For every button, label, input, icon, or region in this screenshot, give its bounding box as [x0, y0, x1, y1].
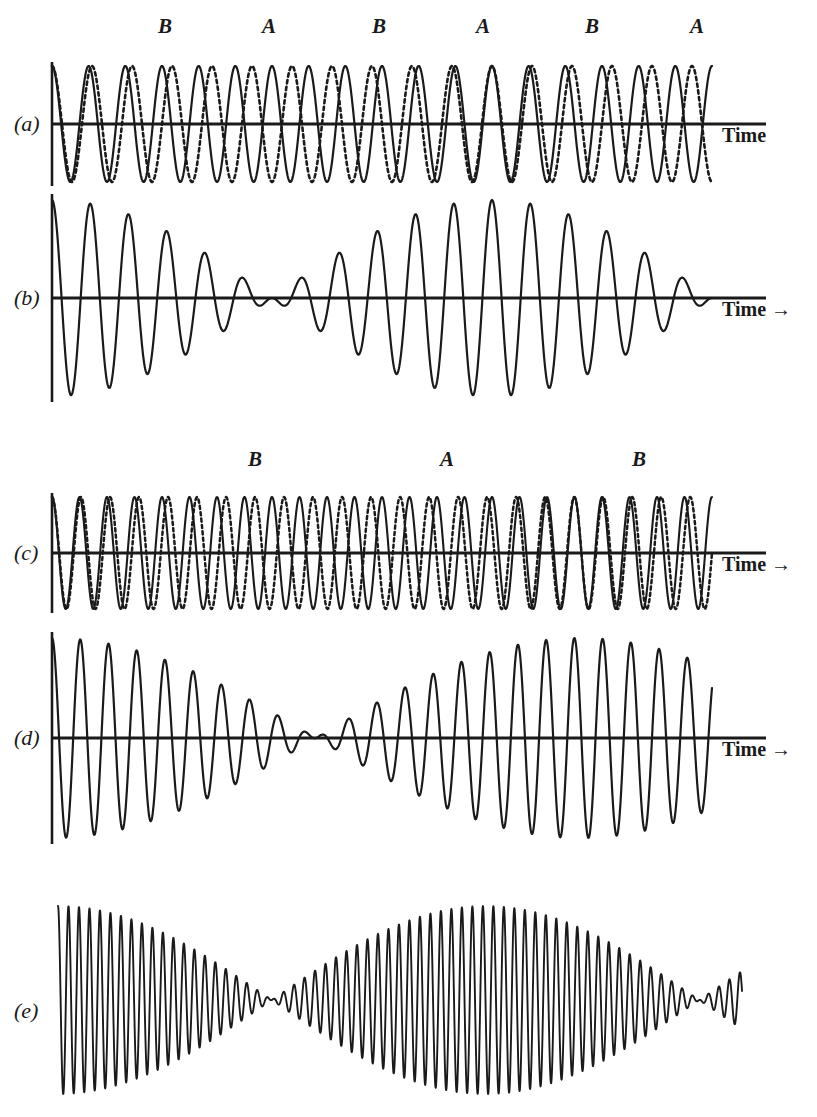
wave-beat-e — [58, 906, 742, 1094]
waveform-canvas — [0, 0, 817, 1117]
beats-figure: B A B A B A B A B (a) (b) (c) (d) (e) Ti… — [0, 0, 817, 1117]
